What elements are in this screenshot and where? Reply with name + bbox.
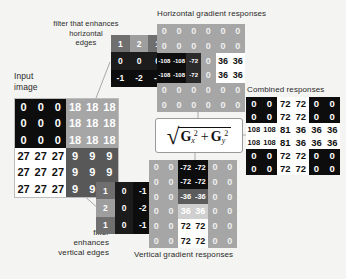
matrix-cell: 36 [324, 123, 340, 136]
matrix-cell: 36 [178, 204, 193, 219]
matrix-cell: 0 [157, 24, 172, 39]
matrix-cell: 72 [293, 97, 309, 110]
matrix-cell: 0 [164, 160, 179, 175]
gradient-magnitude-formula-box: √ Gx2 + Gy2 [155, 118, 243, 153]
matrix-cell: -72 [193, 160, 208, 175]
matrix-cell: 0 [222, 219, 237, 234]
matrix-cell: 2 [96, 199, 115, 216]
matrix-cell: -36 [193, 189, 208, 204]
gy-exponent: 2 [224, 129, 228, 138]
matrix-cell: -72 [178, 160, 193, 175]
matrix-cell: 72 [277, 110, 293, 123]
matrix-cell: 0 [157, 39, 172, 54]
gradient-magnitude-formula: √ Gx2 + Gy2 [167, 124, 231, 147]
matrix-cell: 0 [186, 97, 201, 112]
matrix-cell: 0 [216, 39, 231, 54]
matrix-cell: 0 [15, 99, 32, 115]
matrix-cell: 72 [277, 97, 293, 110]
matrix-cell: 0 [32, 132, 49, 148]
matrix-cell: 36 [309, 123, 325, 136]
matrix-cell: 1 [96, 217, 115, 234]
matrix-cell: 0 [172, 97, 187, 112]
matrix-cell: 0 [172, 24, 187, 39]
matrix-cell: 0 [216, 83, 231, 98]
gx-symbol: G [180, 129, 191, 145]
matrix-cell: 27 [32, 181, 49, 197]
matrix-cell: 0 [309, 162, 325, 175]
matrix-cell: 27 [15, 148, 32, 164]
matrix-cell: -36 [178, 189, 193, 204]
matrix-cell: 0 [49, 99, 66, 115]
matrix-cell: 72 [178, 219, 193, 234]
matrix-cell: 0 [230, 24, 245, 39]
matrix-cell: 0 [324, 149, 340, 162]
matrix-cell: 0 [216, 24, 231, 39]
matrix-cell: 1 [96, 182, 115, 199]
matrix-cell: 72 [293, 149, 309, 162]
matrix-cell: -72 [193, 175, 208, 190]
matrix-cell: 27 [15, 164, 32, 180]
matrix-cell: 18 [84, 115, 101, 131]
matrix-cell: 0 [324, 110, 340, 123]
matrix-cell: 0 [208, 175, 223, 190]
matrix-cell: -1 [111, 70, 130, 87]
matrix-cell: 0 [32, 115, 49, 131]
matrix-cell: 0 [246, 97, 262, 110]
matrix-cell: 0 [309, 97, 325, 110]
radical-sign: √ [167, 125, 180, 148]
combined-responses-matrix: 0072720000727200108108813636361081088136… [246, 97, 340, 175]
matrix-cell: 0 [164, 175, 179, 190]
matrix-cell: 0 [164, 219, 179, 234]
horizontal-gradient-responses-matrix: 000000000000-108-108-7203636-108-108-720… [157, 24, 245, 112]
matrix-cell: 0 [230, 39, 245, 54]
matrix-cell: 27 [32, 164, 49, 180]
matrix-cell: 0 [172, 39, 187, 54]
matrix-cell: 27 [32, 148, 49, 164]
combined-label: Combined responses [247, 85, 342, 95]
matrix-cell: 9 [84, 148, 101, 164]
matrix-cell: 36 [230, 53, 245, 68]
h-grad-label: Horizontal gradient responses [157, 9, 277, 19]
matrix-cell: 108 [262, 123, 278, 136]
matrix-cell: 0 [130, 52, 149, 69]
matrix-cell: 0 [149, 189, 164, 204]
matrix-cell: 72 [277, 162, 293, 175]
matrix-cell: 0 [201, 97, 216, 112]
matrix-cell: -72 [186, 53, 201, 68]
matrix-cell: 72 [193, 219, 208, 234]
matrix-cell: 9 [101, 148, 118, 164]
matrix-cell: 0 [262, 162, 278, 175]
matrix-cell: -108 [157, 68, 172, 83]
matrix-cell: 0 [164, 204, 179, 219]
matrix-cell: 0 [164, 189, 179, 204]
radicand: Gx2 + Gy2 [178, 127, 231, 145]
matrix-cell: 36 [293, 123, 309, 136]
matrix-cell: 0 [115, 182, 134, 199]
matrix-cell: 0 [324, 162, 340, 175]
matrix-cell: 0 [172, 83, 187, 98]
matrix-cell: 27 [49, 181, 66, 197]
vertical-gradient-responses-matrix: 00-72-720000-72-720000-36-36000036360000… [149, 160, 237, 248]
matrix-cell: 81 [277, 136, 293, 149]
matrix-cell: 0 [222, 189, 237, 204]
matrix-cell: 9 [66, 164, 83, 180]
matrix-cell: 0 [149, 204, 164, 219]
matrix-cell: -72 [186, 68, 201, 83]
matrix-cell: 0 [115, 217, 134, 234]
matrix-cell: 0 [111, 52, 130, 69]
matrix-cell: -108 [172, 53, 187, 68]
matrix-cell: 0 [222, 233, 237, 248]
matrix-cell: 27 [49, 164, 66, 180]
matrix-cell: 0 [208, 160, 223, 175]
matrix-cell: -2 [130, 70, 149, 87]
matrix-cell: 2 [130, 35, 149, 52]
matrix-cell: 36 [309, 136, 325, 149]
matrix-cell: 0 [230, 83, 245, 98]
matrix-cell: 36 [293, 136, 309, 149]
matrix-cell: 18 [101, 115, 118, 131]
matrix-cell: 0 [208, 204, 223, 219]
matrix-cell: 36 [193, 204, 208, 219]
matrix-cell: 0 [262, 149, 278, 162]
matrix-cell: 0 [201, 39, 216, 54]
matrix-cell: 0 [157, 83, 172, 98]
